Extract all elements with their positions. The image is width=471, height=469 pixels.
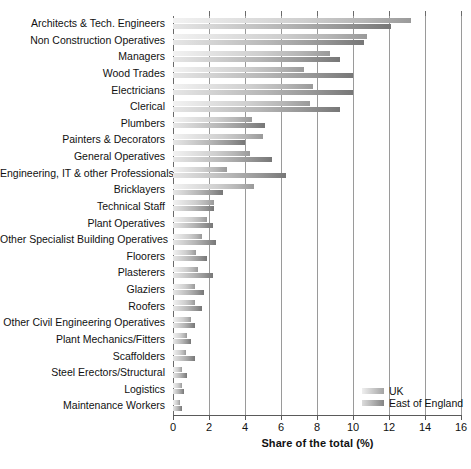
bar-row [173,167,461,182]
bar-east-of-england [173,140,245,145]
bar-east-of-england [173,356,195,361]
y-axis-label: Wood Trades [0,68,169,79]
bar-east-of-england [173,24,391,29]
legend-item-uk: UK [362,385,463,397]
bar-row [173,67,461,82]
y-axis-label: Glaziers [0,284,169,295]
y-axis-label: Architects & Tech. Engineers [0,18,169,29]
bar-row [173,250,461,265]
x-tick-label-8: 8 [304,421,330,433]
y-axis-label: General Operatives [0,151,169,162]
bar-row [173,134,461,149]
x-tick-16 [461,415,462,420]
bar-row [173,184,461,199]
bar-uk [173,51,330,56]
bar-row [173,234,461,249]
bar-east-of-england [173,306,202,311]
y-axis-label: Maintenance Workers [0,400,169,411]
bar-east-of-england [173,123,265,128]
y-axis-label: Electricians [0,85,169,96]
bar-row [173,317,461,332]
bar-row [173,350,461,365]
x-tick-6 [281,415,282,420]
bar-uk [173,117,252,122]
legend-swatch-east-of-england [362,400,384,406]
bar-uk [173,300,195,305]
x-tick-12 [389,415,390,420]
y-axis-label: Plasterers [0,267,169,278]
x-tick-4 [245,415,246,420]
bar-row [173,101,461,116]
bar-row [173,51,461,66]
bar-east-of-england [173,256,207,261]
legend-swatch-uk [362,388,384,394]
bar-row [173,18,461,33]
bar-uk [173,184,254,189]
x-tick-label-16: 16 [448,421,471,433]
bar-row [173,284,461,299]
bar-uk [173,383,182,388]
top-tick-16 [461,11,462,16]
bar-uk [173,134,263,139]
bar-uk [173,217,207,222]
bar-east-of-england [173,40,364,45]
bar-uk [173,167,227,172]
plot-area [173,16,461,415]
bar-uk [173,84,313,89]
bar-east-of-england [173,157,272,162]
bar-row [173,217,461,232]
x-tick-label-0: 0 [160,421,186,433]
x-tick-label-14: 14 [412,421,438,433]
y-axis-label: Scaffolders [0,351,169,362]
legend-label-east-of-england: East of England [389,397,463,409]
bar-rows [173,16,461,415]
bar-east-of-england [173,373,187,378]
bar-uk [173,151,250,156]
bar-east-of-england [173,406,182,411]
bar-uk [173,200,214,205]
gridline-16 [461,16,462,415]
y-axis-label: Roofers [0,301,169,312]
bar-east-of-england [173,339,191,344]
y-axis-label: Non Construction Operatives [0,35,169,46]
y-axis-label: Painters & Decorators [0,134,169,145]
x-tick-10 [353,415,354,420]
bar-uk [173,18,411,23]
bar-row [173,267,461,282]
bar-row [173,151,461,166]
bar-uk [173,400,180,405]
bar-row [173,200,461,215]
bar-row [173,367,461,382]
y-axis-label: Floorers [0,251,169,262]
bar-uk [173,317,191,322]
y-axis-label: Steel Erectors/Structural [0,367,169,378]
bar-east-of-england [173,323,195,328]
bar-uk [173,250,196,255]
chart-container: Architects & Tech. EngineersNon Construc… [0,0,471,469]
bar-uk [173,350,186,355]
y-axis-label: Managers [0,51,169,62]
y-axis-label: Technical Staff [0,201,169,212]
y-axis-label: Plumbers [0,118,169,129]
x-tick-label-12: 12 [376,421,402,433]
y-axis-label: Logistics [0,384,169,395]
bar-east-of-england [173,57,340,62]
x-tick-8 [317,415,318,420]
y-axis-label: Engineering, IT & other Professionals [0,168,169,179]
bar-row [173,300,461,315]
legend-item-east-of-england: East of England [362,397,463,409]
y-axis-label: Plant Operatives [0,218,169,229]
bar-east-of-england [173,73,353,78]
y-axis-label: Clerical [0,101,169,112]
x-tick-label-2: 2 [196,421,222,433]
y-axis-label: Other Specialist Building Operatives [0,234,169,245]
bar-east-of-england [173,389,184,394]
bar-east-of-england [173,190,223,195]
legend: UK East of England [362,385,463,409]
bar-uk [173,34,367,39]
bar-uk [173,284,195,289]
y-axis-label: Plant Mechanics/Fitters [0,334,169,345]
bar-row [173,117,461,132]
bar-east-of-england [173,273,213,278]
bar-uk [173,67,304,72]
